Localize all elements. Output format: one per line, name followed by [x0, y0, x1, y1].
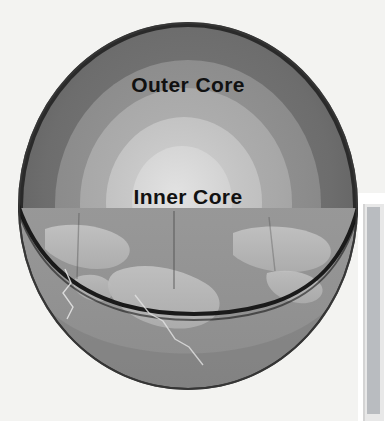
scrollbar-thumb[interactable] — [367, 207, 380, 414]
page-canvas: Outer Core Inner Core — [0, 0, 385, 421]
scrollbar-track-edge — [363, 204, 365, 421]
earth-interior-cutaway-figure: Outer Core Inner Core — [17, 21, 359, 391]
earth-cutaway-svg — [17, 21, 359, 391]
vertical-scrollbar[interactable] — [358, 193, 385, 421]
